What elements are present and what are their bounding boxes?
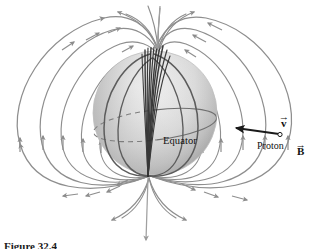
vector-arrow-icon: → [296,140,306,150]
proton-label: Proton [257,141,284,151]
equator-label: Equator [163,136,197,147]
vector-arrow-icon: → [279,112,289,122]
proton-marker [278,132,282,136]
figure-root: Equator Proton → v → B Figure 32.4 [0,0,314,249]
magnetic-field-diagram [0,0,314,249]
magnetic-field-vector-label: → B [297,146,304,157]
figure-caption: Figure 32.4 [4,240,57,249]
velocity-vector-label: → v [281,118,287,129]
